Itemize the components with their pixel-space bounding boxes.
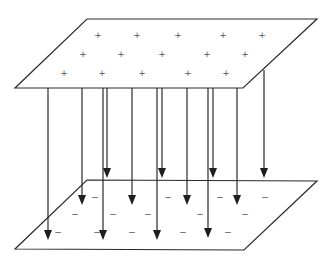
arrowhead-icon (158, 168, 166, 178)
top-plate: +++++++++++++++ (15, 19, 317, 88)
plus-charge: + (203, 49, 211, 59)
plus-charge: + (133, 30, 141, 40)
plus-charge: + (60, 68, 68, 78)
minus-charge: − (224, 227, 232, 237)
minus-charge: − (196, 209, 204, 219)
parallel-plate-field-diagram: −−−−−−−−−−−−−− +++++++++++++++ (0, 0, 332, 262)
arrowhead-icon (260, 168, 268, 178)
minus-charge: − (54, 227, 62, 237)
plus-charge: + (258, 30, 266, 40)
minus-charge: − (261, 192, 269, 202)
negative-plate (15, 180, 317, 250)
minus-charge: − (144, 209, 152, 219)
field-line-arrow (158, 88, 166, 178)
arrowhead-icon (103, 168, 111, 178)
plus-charge: + (174, 30, 182, 40)
plus-charge: + (79, 49, 87, 59)
plus-charge: + (219, 30, 227, 40)
field-line-arrow (260, 70, 268, 178)
plus-charge: + (184, 68, 192, 78)
minus-charge: − (216, 192, 224, 202)
plus-charge: + (222, 68, 230, 78)
minus-charge: − (179, 227, 187, 237)
minus-charge: − (128, 227, 136, 237)
plus-charge: + (117, 49, 125, 59)
field-line-arrow (103, 88, 111, 178)
plus-charge: + (158, 49, 166, 59)
plus-charge: + (94, 30, 102, 40)
minus-charge: − (109, 209, 117, 219)
bottom-plate: −−−−−−−−−−−−−− (15, 180, 317, 250)
minus-charge: − (71, 209, 79, 219)
plus-charge: + (138, 68, 146, 78)
arrowhead-icon (209, 168, 217, 178)
minus-charge: − (241, 209, 249, 219)
plus-charge: + (241, 49, 249, 59)
field-line-arrow (209, 88, 217, 178)
minus-charge: − (91, 192, 99, 202)
plus-charge: + (98, 68, 106, 78)
minus-charge: − (93, 227, 101, 237)
minus-charge: − (164, 192, 172, 202)
